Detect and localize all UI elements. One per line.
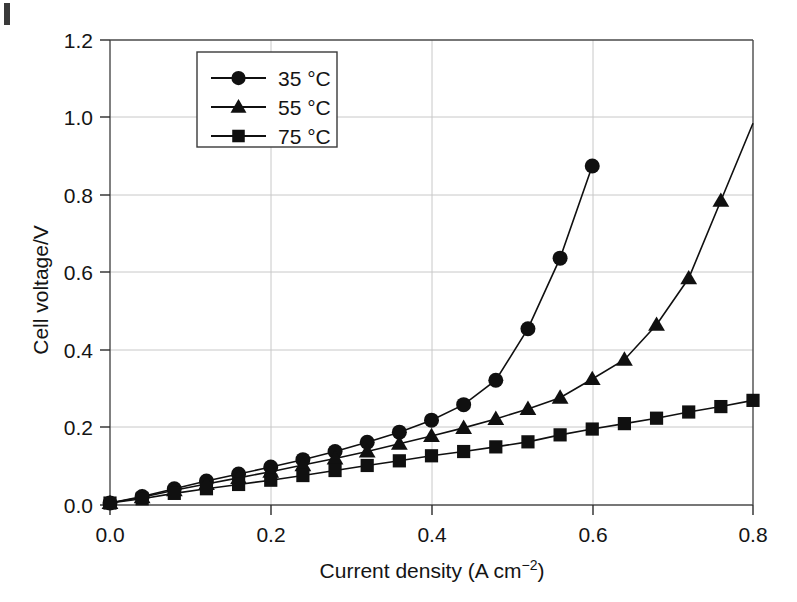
square-marker-icon bbox=[521, 435, 534, 448]
legend-label: 35 °C bbox=[278, 67, 331, 90]
y-tick-labels: 1.2 1.0 0.8 0.6 0.4 0.2 0.0 bbox=[64, 29, 94, 517]
circle-marker-icon bbox=[488, 373, 503, 388]
square-marker-icon bbox=[618, 417, 631, 430]
data-series bbox=[103, 158, 600, 510]
square-marker-icon bbox=[296, 469, 309, 482]
line-chart: 1.2 1.0 0.8 0.6 0.4 0.2 0.0 0.0 0.2 0.4 … bbox=[0, 0, 797, 602]
figure-container: 1.2 1.0 0.8 0.6 0.4 0.2 0.0 0.0 0.2 0.4 … bbox=[0, 0, 797, 602]
x-axis-title: Current density (A cm−2) bbox=[320, 557, 545, 582]
square-marker-icon bbox=[264, 474, 277, 487]
square-marker-icon bbox=[457, 445, 470, 458]
triangle-marker-icon bbox=[520, 401, 537, 415]
x-tick-labels: 0.0 0.2 0.4 0.6 0.8 bbox=[95, 523, 767, 546]
legend-label: 55 °C bbox=[278, 96, 331, 119]
square-marker-icon bbox=[554, 428, 567, 441]
x-tick-label: 0.8 bbox=[738, 523, 767, 546]
triangle-marker-icon bbox=[648, 316, 665, 330]
circle-marker-icon bbox=[585, 158, 600, 173]
x-tick-label: 0.4 bbox=[417, 523, 447, 546]
y-tick-label: 1.2 bbox=[64, 29, 93, 52]
square-marker-icon bbox=[682, 405, 695, 418]
y-tick-label: 1.0 bbox=[64, 106, 93, 129]
circle-marker-icon bbox=[231, 71, 245, 85]
square-marker-icon bbox=[103, 496, 116, 509]
square-marker-icon bbox=[232, 478, 245, 491]
square-marker-icon bbox=[136, 492, 149, 505]
y-axis-title: Cell voltage/V bbox=[29, 225, 52, 355]
square-marker-icon bbox=[361, 459, 374, 472]
x-tick-marks bbox=[110, 505, 753, 515]
circle-marker-icon bbox=[553, 251, 568, 266]
triangle-marker-icon bbox=[552, 389, 569, 403]
circle-marker-icon bbox=[520, 321, 535, 336]
square-marker-icon bbox=[714, 400, 727, 413]
square-marker-icon bbox=[232, 130, 245, 143]
legend-label: 75 °C bbox=[278, 125, 331, 148]
y-tick-label: 0.4 bbox=[64, 339, 94, 362]
square-marker-icon bbox=[200, 482, 213, 495]
triangle-marker-icon bbox=[584, 371, 601, 385]
chart-legend: 35 °C55 °C75 °C bbox=[197, 52, 337, 148]
circle-marker-icon bbox=[456, 397, 471, 412]
x-tick-label: 0.2 bbox=[256, 523, 285, 546]
series-layer bbox=[102, 123, 760, 510]
square-marker-icon bbox=[489, 440, 502, 453]
square-marker-icon bbox=[393, 454, 406, 467]
circle-marker-icon bbox=[424, 413, 439, 428]
square-marker-icon bbox=[746, 394, 759, 407]
square-marker-icon bbox=[168, 487, 181, 500]
y-tick-label: 0.2 bbox=[64, 416, 93, 439]
y-tick-label: 0.6 bbox=[64, 261, 93, 284]
y-tick-label: 0.0 bbox=[64, 494, 93, 517]
y-tick-marks bbox=[100, 40, 110, 505]
square-marker-icon bbox=[650, 412, 663, 425]
series-line bbox=[110, 166, 592, 503]
square-marker-icon bbox=[586, 422, 599, 435]
x-tick-label: 0.6 bbox=[578, 523, 607, 546]
square-marker-icon bbox=[425, 449, 438, 462]
square-marker-icon bbox=[328, 464, 341, 477]
x-tick-label: 0.0 bbox=[95, 523, 124, 546]
y-tick-label: 0.8 bbox=[64, 184, 93, 207]
